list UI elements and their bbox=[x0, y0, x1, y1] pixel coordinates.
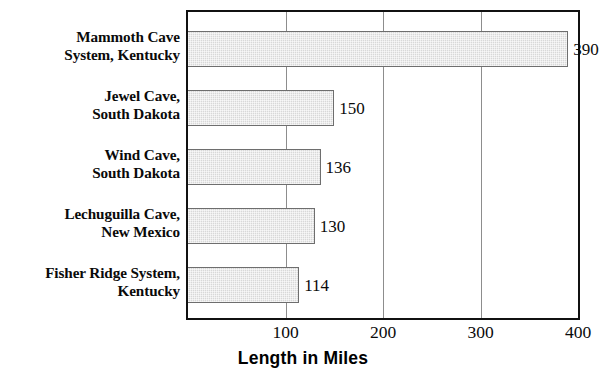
bar-value-label: 130 bbox=[320, 218, 346, 235]
x-tick-label: 300 bbox=[467, 324, 493, 342]
x-tick-label: 100 bbox=[272, 324, 298, 342]
category-label: Lechuguilla Cave, New Mexico bbox=[0, 205, 180, 240]
bar-value-label: 150 bbox=[339, 100, 365, 117]
x-tick-label: 200 bbox=[370, 324, 396, 342]
bar bbox=[188, 31, 568, 67]
category-label: Mammoth Cave System, Kentucky bbox=[0, 28, 180, 63]
category-label: Jewel Cave, South Dakota bbox=[0, 87, 180, 122]
bar-value-label: 136 bbox=[326, 159, 352, 176]
category-label-line: Kentucky bbox=[0, 282, 180, 300]
category-label-line: Mammoth Cave bbox=[0, 28, 180, 46]
chart-figure: Mammoth Cave System, Kentucky Jewel Cave… bbox=[0, 0, 606, 376]
category-label-line: South Dakota bbox=[0, 164, 180, 182]
plot-area bbox=[186, 10, 580, 320]
x-axis-title: Length in Miles bbox=[0, 348, 606, 369]
bar-value-label: 390 bbox=[573, 41, 599, 58]
x-tick-label: 400 bbox=[565, 324, 591, 342]
bar bbox=[188, 208, 315, 244]
category-label: Fisher Ridge System, Kentucky bbox=[0, 264, 180, 299]
category-label-line: Jewel Cave, bbox=[0, 87, 180, 105]
category-label-line: Fisher Ridge System, bbox=[0, 264, 180, 282]
category-label-line: South Dakota bbox=[0, 105, 180, 123]
category-label-line: New Mexico bbox=[0, 223, 180, 241]
bar bbox=[188, 267, 299, 303]
category-label: Wind Cave, South Dakota bbox=[0, 146, 180, 181]
category-label-line: System, Kentucky bbox=[0, 46, 180, 64]
bar-value-label: 114 bbox=[304, 277, 329, 294]
plot-inner bbox=[188, 12, 578, 318]
bar bbox=[188, 90, 334, 126]
bar bbox=[188, 149, 321, 185]
category-label-line: Wind Cave, bbox=[0, 146, 180, 164]
category-label-line: Lechuguilla Cave, bbox=[0, 205, 180, 223]
category-axis-labels: Mammoth Cave System, Kentucky Jewel Cave… bbox=[0, 10, 180, 320]
